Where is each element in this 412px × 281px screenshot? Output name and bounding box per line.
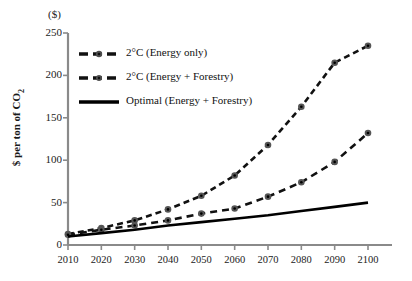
x-tick-label: 2010 — [50, 254, 86, 265]
legend-key-dashed-marker-icon — [78, 46, 120, 58]
y-tick-label: 150 — [30, 111, 62, 123]
y-tick-label: 0 — [30, 238, 62, 250]
x-tick-label: 2020 — [83, 254, 119, 265]
y-tick-label: 200 — [30, 68, 62, 80]
data-point-marker-core — [100, 228, 103, 231]
legend-key-dashed-marker-icon — [78, 70, 120, 82]
data-point-marker-core — [367, 132, 370, 135]
data-point-marker-core — [233, 207, 236, 210]
legend-item: 2°C (Energy only) — [78, 40, 328, 64]
x-tick-label: 2040 — [150, 254, 186, 265]
x-tick-label: 2030 — [117, 254, 153, 265]
legend-item-label: 2°C (Energy + Forestry) — [126, 70, 233, 82]
y-tick-label: 50 — [30, 196, 62, 208]
data-point-marker-core — [200, 212, 203, 215]
x-tick-label: 2070 — [250, 254, 286, 265]
data-point-marker-core — [267, 195, 270, 198]
legend-item-label: Optimal (Energy + Forestry) — [126, 94, 252, 106]
data-point-marker-core — [233, 174, 236, 177]
data-point-marker-core — [167, 208, 170, 211]
data-point-marker-core — [267, 144, 270, 147]
legend-item-label: 2°C (Energy only) — [126, 46, 207, 58]
data-point-marker-core — [300, 181, 303, 184]
chart-legend: 2°C (Energy only) 2°C (Energy + Forestry… — [78, 40, 328, 112]
legend-key-solid-line-icon — [78, 94, 120, 106]
y-tick-label: 100 — [30, 153, 62, 165]
x-tick-label: 2100 — [350, 254, 386, 265]
x-tick-label: 2080 — [283, 254, 319, 265]
x-tick-label: 2090 — [317, 254, 353, 265]
x-tick-label: 2050 — [183, 254, 219, 265]
series-line — [68, 203, 368, 237]
data-point-marker-core — [333, 61, 336, 64]
data-point-marker-core — [133, 224, 136, 227]
data-point-marker-core — [333, 161, 336, 164]
legend-item: 2°C (Energy + Forestry) — [78, 64, 328, 88]
x-tick-label: 2060 — [217, 254, 253, 265]
legend-item: Optimal (Energy + Forestry) — [78, 88, 328, 112]
data-point-marker-core — [133, 219, 136, 222]
data-point-marker-core — [167, 219, 170, 222]
y-tick-label: 250 — [30, 26, 62, 38]
data-point-marker-core — [200, 195, 203, 198]
chart-figure: ($) $ per ton of CO2 050100150200250 201… — [0, 0, 412, 281]
data-point-marker-core — [367, 44, 370, 47]
